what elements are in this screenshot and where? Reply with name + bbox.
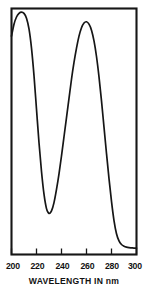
x-tick-label-3: 260 [80,261,94,271]
x-tick-label-2: 240 [55,261,69,271]
x-tick-labels: 200 220 240 260 280 300 [6,261,142,271]
x-tick-label-1: 220 [30,261,44,271]
spectrum-plot: 200 220 240 260 280 300 WAVELENGTH IN nm [0,0,147,290]
x-axis-title: WAVELENGTH IN nm [29,276,119,286]
plot-frame [12,9,137,255]
x-tick-label-4: 280 [105,261,119,271]
uv-absorption-spectrum-figure: 200 220 240 260 280 300 WAVELENGTH IN nm [0,0,147,290]
absorbance-curve [12,12,137,248]
x-tick-label-0: 200 [6,261,20,271]
x-tick-label-5: 300 [128,261,142,271]
